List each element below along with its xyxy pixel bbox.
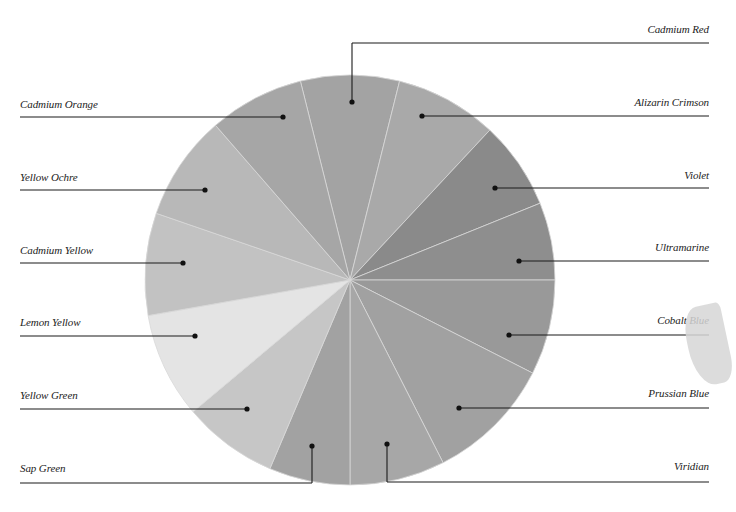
label-prussian-blue: Prussian Blue (648, 387, 709, 399)
label-violet: Violet (684, 169, 709, 181)
label-lemon-yellow: Lemon Yellow (20, 316, 80, 328)
leader-dot (492, 185, 497, 190)
leader-dot (516, 258, 521, 263)
leader-dot (419, 113, 424, 118)
leader-dot (192, 333, 197, 338)
leader-dot (202, 187, 207, 192)
label-viridian: Viridian (674, 460, 709, 472)
leader-dot (349, 99, 354, 104)
leader-dot (180, 260, 185, 265)
leader-dot (456, 405, 461, 410)
label-ultramarine: Ultramarine (655, 241, 709, 253)
wheel-segments (145, 75, 555, 485)
label-cadmium-red: Cadmium Red (647, 23, 709, 35)
label-sap-green: Sap Green (20, 462, 65, 474)
leader-dot (506, 332, 511, 337)
label-alizarin-crimson: Alizarin Crimson (635, 96, 710, 108)
label-cadmium-orange: Cadmium Orange (20, 98, 98, 110)
label-yellow-green: Yellow Green (20, 389, 78, 401)
leader-dot (384, 441, 389, 446)
label-cadmium-yellow: Cadmium Yellow (20, 244, 93, 256)
leader-dot (309, 443, 314, 448)
label-yellow-ochre: Yellow Ochre (20, 171, 78, 183)
leader-dot (280, 114, 285, 119)
leader-dot (244, 406, 249, 411)
